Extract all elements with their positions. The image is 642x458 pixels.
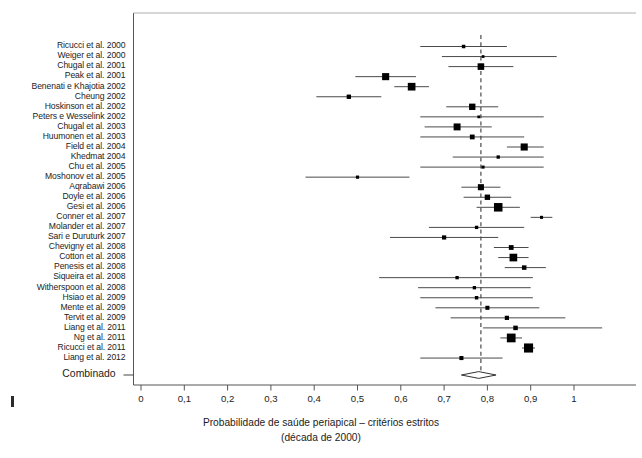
study-label: Molander et al. 2007 xyxy=(0,222,126,231)
point-estimate-marker xyxy=(382,73,389,80)
forest-row xyxy=(379,276,533,279)
forest-row xyxy=(435,306,539,310)
forest-row xyxy=(461,184,500,190)
x-axis-tick-label: 0,5 xyxy=(338,393,378,404)
study-label: Ricucci et al. 2000 xyxy=(0,41,126,50)
point-estimate-marker xyxy=(470,135,475,140)
forest-row xyxy=(531,216,553,219)
point-estimate-marker xyxy=(509,245,514,250)
summary-row-label: Combinado xyxy=(0,368,116,379)
point-estimate-marker xyxy=(455,276,458,279)
x-axis-tick-label: 0,1 xyxy=(164,393,204,404)
point-estimate-marker xyxy=(475,226,478,229)
forest-row xyxy=(420,135,524,140)
study-label: Chevigny et al. 2008 xyxy=(0,242,126,251)
point-estimate-marker xyxy=(478,63,485,70)
study-label: Field et al. 2004 xyxy=(0,142,126,151)
point-estimate-marker xyxy=(524,343,533,352)
study-label: Hoskinson et al. 2002 xyxy=(0,102,126,111)
forest-row xyxy=(483,326,602,330)
study-label: Peters e Wesselink 2002 xyxy=(0,112,126,121)
point-estimate-marker xyxy=(485,306,489,310)
x-axis-tick-label: 0,6 xyxy=(381,393,421,404)
point-estimate-marker xyxy=(462,45,465,48)
x-axis-caption-line1: Probabilidade de saúde periapical – crit… xyxy=(0,417,642,428)
forest-row xyxy=(446,104,498,110)
point-estimate-marker xyxy=(477,115,480,118)
forest-row xyxy=(453,155,544,158)
forest-row xyxy=(420,45,507,48)
forest-row xyxy=(420,166,543,169)
study-label: Cotton et al. 2008 xyxy=(0,252,126,261)
study-label: Ricucci et al. 2011 xyxy=(0,343,126,352)
point-estimate-marker xyxy=(442,235,446,239)
study-label: Chu et al. 2005 xyxy=(0,162,126,171)
study-label: Witherspoon et al. 2008 xyxy=(0,283,126,292)
point-estimate-marker xyxy=(473,286,476,289)
study-label: Tervit et al. 2009 xyxy=(0,313,126,322)
point-estimate-marker xyxy=(510,254,518,262)
forest-row xyxy=(448,63,513,70)
point-estimate-marker xyxy=(469,104,475,110)
x-axis-tick-label: 0,4 xyxy=(294,393,334,404)
forest-row xyxy=(420,296,533,299)
forest-row xyxy=(418,286,531,289)
point-estimate-marker xyxy=(497,155,500,158)
study-label: Khedmat 2004 xyxy=(0,152,126,161)
x-axis-tick-label: 0,9 xyxy=(511,393,551,404)
study-label: Hsiao et al. 2009 xyxy=(0,293,126,302)
study-label: Doyle et al. 2006 xyxy=(0,192,126,201)
forest-row xyxy=(420,356,502,360)
study-label: Liang et al. 2012 xyxy=(0,353,126,362)
forest-row xyxy=(316,95,381,99)
study-label: Chugal et al. 2001 xyxy=(0,61,126,70)
forest-row xyxy=(425,123,492,130)
forest-row xyxy=(464,195,512,200)
forest-row xyxy=(306,176,410,179)
forest-row xyxy=(494,245,529,250)
study-label: Benenati e Khajotia 2002 xyxy=(0,82,126,91)
forest-row xyxy=(442,55,557,58)
x-axis-tick-label: 0 xyxy=(121,393,161,404)
forest-row xyxy=(500,334,522,343)
study-label: Weiger et al. 2000 xyxy=(0,51,126,60)
study-label: Conner et al. 2007 xyxy=(0,212,126,221)
point-estimate-marker xyxy=(475,296,478,299)
study-label: Gesi et al. 2006 xyxy=(0,202,126,211)
forest-row xyxy=(451,316,566,320)
point-estimate-marker xyxy=(356,176,359,179)
study-label: Peak et al. 2001 xyxy=(0,71,126,80)
forest-row xyxy=(390,235,498,239)
point-estimate-marker xyxy=(494,203,503,212)
study-label: Sari e Duruturk 2007 xyxy=(0,232,126,241)
study-label: Cheung 2002 xyxy=(0,92,126,101)
forest-plot: Ricucci et al. 2000Weiger et al. 2000Chu… xyxy=(0,0,642,458)
study-label: Moshonov et al. 2005 xyxy=(0,172,126,181)
study-label: Huumonen et al. 2003 xyxy=(0,132,126,141)
study-label: Ng et al. 2011 xyxy=(0,333,126,342)
x-axis-tick-label: 0,7 xyxy=(424,393,464,404)
point-estimate-marker xyxy=(540,216,543,219)
study-label: Chugal et al. 2003 xyxy=(0,122,126,131)
forest-row xyxy=(507,143,544,150)
point-estimate-marker xyxy=(507,334,516,343)
study-label: Liang et al. 2011 xyxy=(0,323,126,332)
forest-row xyxy=(498,254,528,262)
study-label: Aqrabawi 2006 xyxy=(0,182,126,191)
forest-row xyxy=(522,343,535,352)
point-estimate-marker xyxy=(408,83,416,91)
x-axis-tick-label: 0,3 xyxy=(251,393,291,404)
forest-row xyxy=(429,226,524,229)
forest-row xyxy=(420,115,543,118)
point-estimate-marker xyxy=(485,195,490,200)
point-estimate-marker xyxy=(347,95,351,99)
study-label: Penesis et al. 2008 xyxy=(0,262,126,271)
x-axis-caption-line2: (década de 2000) xyxy=(0,432,642,443)
point-estimate-marker xyxy=(482,166,485,169)
x-axis-tick-label: 0,8 xyxy=(467,393,507,404)
forest-row xyxy=(505,265,546,269)
forest-row xyxy=(394,83,429,91)
point-estimate-marker xyxy=(459,356,463,360)
point-estimate-marker xyxy=(505,316,509,320)
point-estimate-marker xyxy=(521,143,528,150)
